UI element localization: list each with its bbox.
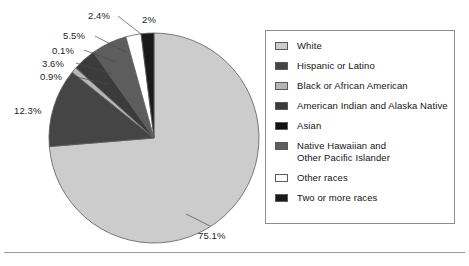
legend-item-label: Hispanic or Latino bbox=[297, 60, 375, 72]
legend-item[interactable]: American Indian and Alaska Native bbox=[275, 100, 454, 112]
legend-item[interactable]: Two or more races bbox=[275, 192, 454, 204]
legend-item[interactable]: Other races bbox=[275, 172, 454, 184]
legend-swatch-amerindian bbox=[275, 102, 288, 110]
legend-swatch-hispanic bbox=[275, 62, 288, 70]
legend-item-label: Native Hawaiian andOther Pacific Islande… bbox=[297, 140, 390, 163]
pie-slice-value-label: 5.5% bbox=[63, 30, 85, 41]
legend-item[interactable]: Native Hawaiian andOther Pacific Islande… bbox=[275, 140, 454, 163]
pie-slice-value-label: 0.9% bbox=[40, 71, 62, 82]
pie-slice-value-label: 2% bbox=[142, 14, 156, 25]
pie-slice-value-label: 2.4% bbox=[88, 10, 110, 21]
legend-swatch-black bbox=[275, 82, 288, 90]
pie-chart-svg bbox=[0, 0, 262, 250]
legend-item[interactable]: Black or African American bbox=[275, 80, 454, 92]
legend-swatch-other bbox=[275, 174, 288, 182]
legend-swatch-hawaiian bbox=[275, 142, 288, 150]
chart-legend: WhiteHispanic or LatinoBlack or African … bbox=[265, 30, 455, 224]
legend-swatch-asian bbox=[275, 122, 288, 130]
legend-item-label-line2: Other Pacific Islander bbox=[297, 152, 390, 164]
pie-slice-value-label: 12.3% bbox=[14, 105, 41, 116]
legend-item-label: American Indian and Alaska Native bbox=[297, 100, 448, 112]
leader-line bbox=[118, 16, 141, 34]
legend-item[interactable]: White bbox=[275, 40, 454, 52]
pie-slice-value-label: 3.6% bbox=[42, 58, 64, 69]
legend-item-label: Black or African American bbox=[297, 80, 408, 92]
pie-chart-figure: 2.4%2%5.5%0.1%3.6%0.9%12.3%75.1% WhiteHi… bbox=[0, 0, 469, 266]
legend-swatch-twoormore bbox=[275, 194, 288, 202]
legend-item[interactable]: Hispanic or Latino bbox=[275, 60, 454, 72]
horizontal-divider bbox=[4, 252, 465, 253]
pie-slice-value-label: 0.1% bbox=[52, 45, 74, 56]
legend-swatch-white bbox=[275, 42, 288, 50]
legend-item-label: White bbox=[297, 40, 322, 52]
legend-item-label: Two or more races bbox=[297, 192, 377, 204]
legend-item-label: Other races bbox=[297, 172, 348, 184]
legend-item-label: Asian bbox=[297, 120, 321, 132]
pie-chart-plot-area: 2.4%2%5.5%0.1%3.6%0.9%12.3%75.1% bbox=[0, 0, 262, 250]
legend-item[interactable]: Asian bbox=[275, 120, 454, 132]
pie-slice-value-label: 75.1% bbox=[198, 230, 225, 241]
